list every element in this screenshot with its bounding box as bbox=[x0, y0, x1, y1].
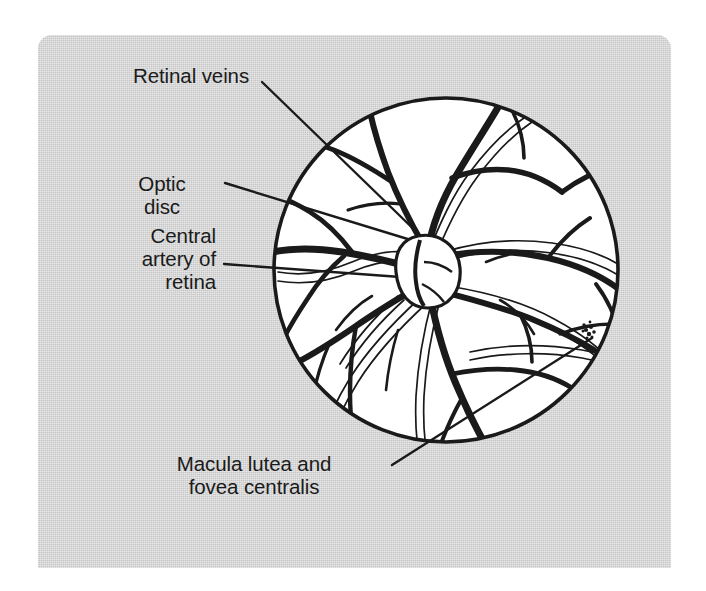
label-retinal-veins: Retinal veins bbox=[133, 64, 249, 87]
figure-page: Retinal veins Optic disc Central artery … bbox=[0, 0, 706, 591]
label-macula-lutea-and-fovea-centralis: Macula lutea and fovea centralis bbox=[120, 452, 388, 498]
retina-fundus-illustration bbox=[0, 0, 706, 591]
label-optic-disc: Optic disc bbox=[108, 172, 216, 218]
label-central-artery-of-retina: Central artery of retina bbox=[72, 224, 216, 293]
optic-disc bbox=[396, 235, 460, 308]
